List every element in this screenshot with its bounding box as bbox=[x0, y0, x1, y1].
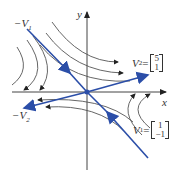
trajectory-left-2 bbox=[33, 36, 48, 90]
eigenline-v1-mid bbox=[68, 71, 87, 92]
v1-vector-label: V1 = 1−1 bbox=[133, 121, 169, 139]
v1-matrix: 1−1 bbox=[151, 121, 169, 139]
neg-v2-label: −V2 bbox=[12, 110, 30, 124]
neg-v1-label: −V1 bbox=[14, 18, 32, 32]
eigenline-v2-right bbox=[87, 75, 148, 92]
v2-vector-label: V2 = 51 bbox=[132, 54, 163, 72]
eigenline-v2-left bbox=[24, 92, 87, 108]
trajectory-upper-right-3 bbox=[40, 45, 130, 81]
trajectory-left-1 bbox=[24, 40, 38, 90]
trajectory-lower-left-2 bbox=[38, 99, 133, 122]
trajectory-upper-right-1 bbox=[52, 22, 118, 62]
trajectories bbox=[12, 22, 150, 135]
v2-matrix: 51 bbox=[150, 54, 163, 72]
x-axis-label: x bbox=[162, 97, 167, 108]
y-axis-label: y bbox=[77, 9, 82, 20]
trajectory-left-3 bbox=[12, 47, 23, 85]
equilibrium-point bbox=[85, 90, 90, 95]
